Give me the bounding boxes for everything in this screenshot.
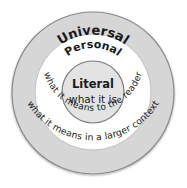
inner-circle-literal <box>62 61 124 123</box>
concentric-diagram: Universal Personal Literal what it is wh… <box>0 0 187 188</box>
literal-title: Literal <box>72 77 114 91</box>
